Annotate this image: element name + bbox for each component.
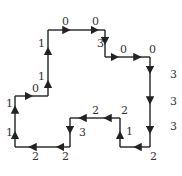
edge-label: 2: [92, 104, 99, 117]
edge-label: 0: [92, 15, 99, 28]
edge-label: 3: [170, 95, 177, 108]
edge-label: 2: [32, 150, 39, 163]
edge-label: 2: [62, 150, 69, 163]
edge-label: 1: [6, 97, 13, 110]
edge-label: 1: [38, 70, 45, 83]
edge-label: 2: [150, 150, 157, 163]
chain-code-diagram: 11011003003332122322: [0, 0, 182, 176]
edge-label: 0: [32, 82, 39, 95]
edge-label: 3: [97, 37, 104, 50]
edge-label: 0: [149, 43, 156, 56]
edge-label: 2: [121, 104, 128, 117]
edge-label: 1: [126, 125, 133, 138]
edge-label: 0: [120, 43, 127, 56]
edge-label: 3: [170, 120, 177, 133]
labels: 11011003003332122322: [6, 15, 177, 163]
edge-label: 3: [170, 68, 177, 81]
edge-label: 0: [62, 15, 69, 28]
edge-label: 1: [6, 126, 13, 139]
edge-label: 3: [79, 126, 86, 139]
edge-label: 1: [38, 37, 45, 50]
